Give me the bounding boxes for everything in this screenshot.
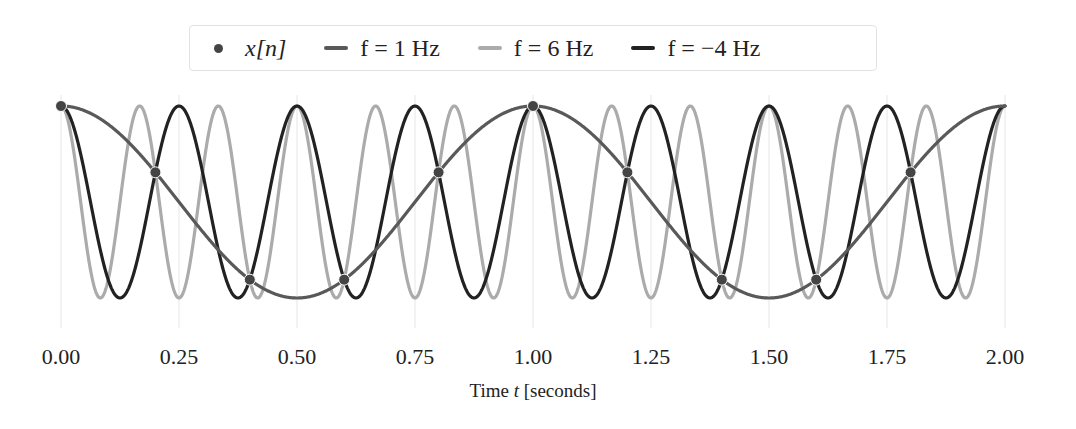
legend-line-icon — [478, 46, 502, 50]
x-tick-label: 1.75 — [868, 344, 907, 370]
legend-line-icon — [324, 46, 348, 50]
x-axis-label-prefix: Time — [469, 380, 513, 401]
x-tick-label: 1.50 — [750, 344, 789, 370]
sample-point — [433, 167, 444, 178]
sample-point — [811, 274, 822, 285]
sample-point — [622, 167, 633, 178]
legend-line-icon — [631, 46, 655, 50]
legend-label: f = −4 Hz — [667, 35, 760, 62]
x-axis-label: Time t [seconds] — [469, 380, 596, 402]
x-tick-label: 1.00 — [514, 344, 553, 370]
x-tick-label: 2.00 — [986, 344, 1025, 370]
chart-legend: x[n] f = 1 Hz f = 6 Hz f = −4 Hz — [189, 25, 877, 71]
sample-point — [716, 274, 727, 285]
sample-point — [905, 167, 916, 178]
legend-label: f = 1 Hz — [360, 35, 440, 62]
legend-label: f = 6 Hz — [514, 35, 594, 62]
legend-item-6hz: f = 6 Hz — [478, 35, 594, 62]
legend-item-neg4hz: f = −4 Hz — [631, 35, 760, 62]
x-tick-label: 0.75 — [396, 344, 435, 370]
x-tick-label: 1.25 — [632, 344, 671, 370]
x-tick-label: 0.50 — [278, 344, 317, 370]
legend-item-1hz: f = 1 Hz — [324, 35, 440, 62]
x-axis-label-suffix: [seconds] — [519, 380, 597, 401]
x-tick-label: 0.25 — [160, 344, 199, 370]
sample-point — [339, 274, 350, 285]
x-tick-label: 0.00 — [42, 344, 81, 370]
sample-point — [150, 167, 161, 178]
sample-point — [56, 101, 67, 112]
legend-item-samples: x[n] — [206, 35, 286, 62]
x-gridlines — [61, 95, 1005, 328]
sample-point — [528, 101, 539, 112]
legend-label: x[n] — [245, 35, 286, 62]
sample-point — [244, 274, 255, 285]
legend-dot-icon — [214, 44, 223, 53]
